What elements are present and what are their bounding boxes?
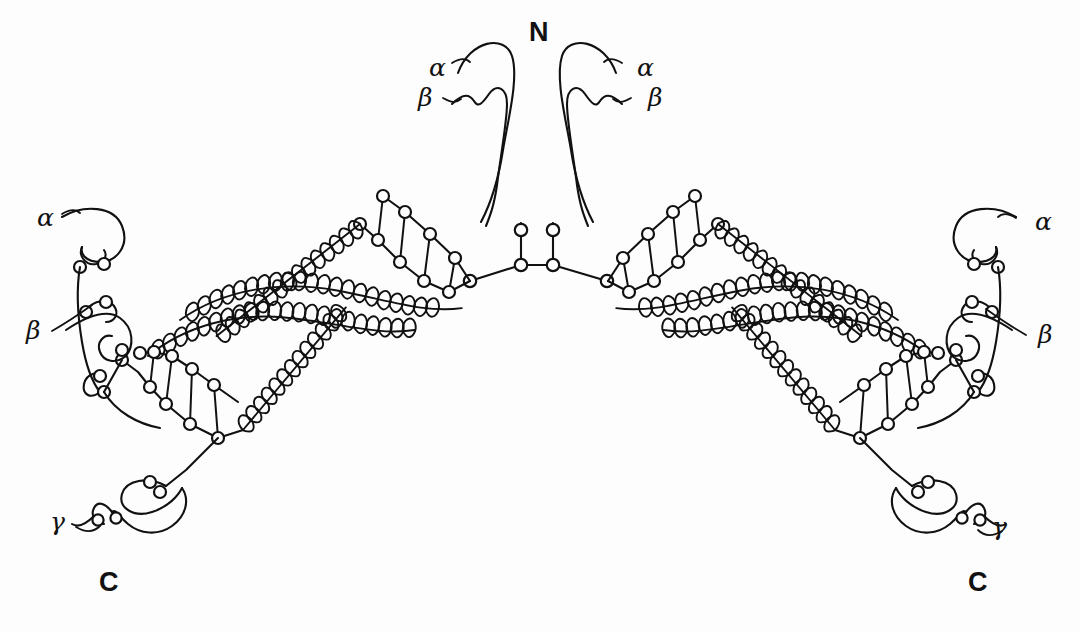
domain-node xyxy=(858,379,870,391)
domain-node xyxy=(648,275,660,287)
domain-node xyxy=(667,206,679,218)
label-alpha-top-right: α xyxy=(637,55,654,80)
label-alpha-top-left: α xyxy=(429,55,446,80)
label-beta-top-left: β xyxy=(418,85,432,110)
domain-node xyxy=(160,398,172,410)
domain-node xyxy=(547,224,559,236)
domain-node xyxy=(186,363,198,375)
domain-node xyxy=(922,381,934,393)
domain-node xyxy=(672,256,684,268)
domain-node xyxy=(642,228,654,240)
domain-node xyxy=(98,258,110,270)
domain-node xyxy=(100,296,112,308)
domain-node xyxy=(922,476,934,488)
domain-node xyxy=(882,418,894,430)
domain-node xyxy=(950,344,962,356)
domain-node xyxy=(399,206,411,218)
domain-node xyxy=(443,286,455,298)
label-c-terminus-left: C xyxy=(99,569,119,596)
domain-node xyxy=(449,252,461,264)
domain-node xyxy=(694,234,706,246)
figure-canvas: .ln { fill:none; stroke:#111; stroke-wid… xyxy=(0,0,1080,632)
domain-node xyxy=(377,190,389,202)
domain-node xyxy=(918,346,930,358)
left-arm xyxy=(62,190,470,533)
domain-node xyxy=(148,346,160,358)
domain-node xyxy=(144,381,156,393)
domain-node xyxy=(418,275,430,287)
left-gamma-tail xyxy=(72,438,218,533)
domain-node xyxy=(972,370,984,382)
domain-node xyxy=(547,259,559,271)
domain-node xyxy=(515,259,527,271)
right-gamma-tail xyxy=(860,438,1006,533)
domain-node xyxy=(515,224,527,236)
domain-node xyxy=(617,252,629,264)
domain-node xyxy=(966,296,978,308)
domain-node xyxy=(623,286,635,298)
label-beta-top-right: β xyxy=(648,85,662,110)
molecule-diagram: .ln { fill:none; stroke:#111; stroke-wid… xyxy=(0,0,1080,632)
domain-node xyxy=(956,512,967,523)
domain-node xyxy=(912,486,924,498)
label-n-terminus: N xyxy=(529,19,549,46)
domain-node xyxy=(394,256,406,268)
central-junction xyxy=(464,223,613,287)
label-beta-right: β xyxy=(1038,322,1052,347)
domain-node xyxy=(372,234,384,246)
domain-node xyxy=(110,512,121,523)
domain-node xyxy=(968,258,980,270)
label-leaders xyxy=(52,59,1026,535)
n-terminal-hairpins xyxy=(452,43,622,226)
label-alpha-right: α xyxy=(1035,209,1052,234)
domain-node xyxy=(154,486,166,498)
domain-node xyxy=(116,344,128,356)
left-alpha-head xyxy=(62,209,160,428)
domain-node xyxy=(208,379,220,391)
domain-node xyxy=(94,370,106,382)
domain-node xyxy=(144,476,156,488)
domain-node xyxy=(689,190,701,202)
domain-node xyxy=(880,363,892,375)
label-alpha-left: α xyxy=(37,205,54,230)
label-gamma-right: γ xyxy=(992,514,1007,539)
domain-node xyxy=(906,398,918,410)
label-beta-left: β xyxy=(26,318,40,343)
molecule-strokes xyxy=(52,43,1026,535)
domain-node xyxy=(184,418,196,430)
domain-node xyxy=(424,228,436,240)
domain-node xyxy=(900,350,912,362)
domain-node xyxy=(932,347,944,359)
right-arm xyxy=(608,190,1016,533)
domain-node xyxy=(166,350,178,362)
domain-node xyxy=(134,347,146,359)
right-alpha-head xyxy=(918,209,1016,428)
label-c-terminus-right: C xyxy=(968,569,988,596)
label-gamma-left: γ xyxy=(50,509,65,534)
